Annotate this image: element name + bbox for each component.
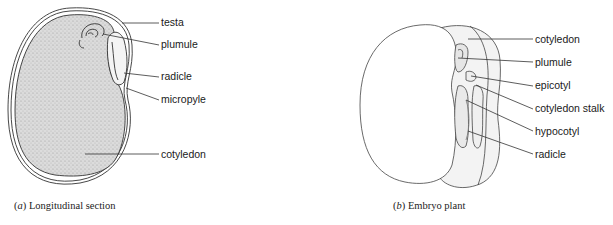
seed-diagram — [0, 0, 613, 225]
label-radicle: radicle — [535, 148, 566, 160]
label-testa: testa — [161, 16, 184, 28]
caption-a-text: Longitudinal section — [29, 200, 116, 211]
label-epicotyl: epicotyl — [535, 79, 571, 91]
label-radicle: radicle — [161, 70, 192, 82]
label-cotyledon-stalk: cotyledon stalk — [535, 102, 604, 114]
caption-a: (a) Longitudinal section — [14, 200, 116, 211]
front-cotyledon — [360, 25, 456, 184]
label-hypocotyl: hypocotyl — [535, 125, 579, 137]
label-micropyle: micropyle — [161, 93, 206, 105]
label-cotyledon: cotyledon — [535, 33, 580, 45]
label-plumule: plumule — [535, 56, 572, 68]
label-plumule: plumule — [161, 38, 198, 50]
label-cotyledon: cotyledon — [161, 148, 206, 160]
caption-b-text: Embryo plant — [408, 200, 465, 211]
caption-b: (b) Embryo plant — [393, 200, 465, 211]
longitudinal-section-drawing — [8, 8, 132, 184]
caption-b-letter: b — [397, 200, 402, 211]
cotyledon-stalk — [472, 86, 483, 148]
caption-a-letter: a — [18, 200, 23, 211]
